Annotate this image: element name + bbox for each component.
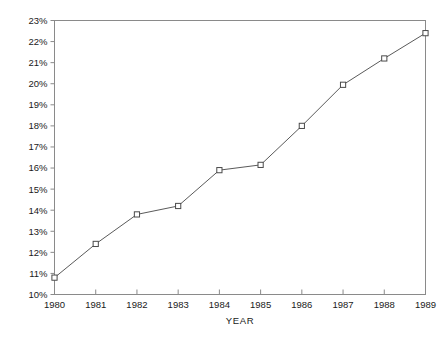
y-tick-label: 23% xyxy=(28,15,48,26)
y-tick-label: 14% xyxy=(28,205,48,216)
data-point-marker xyxy=(382,56,387,61)
x-tick-label: 1981 xyxy=(85,299,106,310)
line-chart: 10%11%12%13%14%15%16%17%18%19%20%21%22%2… xyxy=(0,0,446,338)
data-point-marker xyxy=(52,275,57,280)
x-tick-label: 1980 xyxy=(44,299,65,310)
data-point-marker xyxy=(93,241,98,246)
y-tick-label: 22% xyxy=(28,36,48,47)
data-point-marker xyxy=(299,123,304,128)
data-point-marker xyxy=(176,203,181,208)
chart-screenshot: 10%11%12%13%14%15%16%17%18%19%20%21%22%2… xyxy=(0,0,446,338)
y-tick-label: 13% xyxy=(28,226,48,237)
y-tick-label: 17% xyxy=(28,141,48,152)
x-tick-label: 1983 xyxy=(168,299,189,310)
data-point-marker xyxy=(340,82,345,87)
x-tick-label: 1989 xyxy=(415,299,436,310)
x-axis-title: YEAR xyxy=(226,315,254,326)
y-tick-label: 19% xyxy=(28,99,48,110)
y-tick-label: 20% xyxy=(28,78,48,89)
y-tick-label: 21% xyxy=(28,57,48,68)
data-point-marker xyxy=(258,162,263,167)
x-tick-label: 1984 xyxy=(209,299,230,310)
data-point-marker xyxy=(217,168,222,173)
x-tick-label: 1987 xyxy=(332,299,353,310)
y-tick-label: 12% xyxy=(28,247,48,258)
y-tick-label: 11% xyxy=(29,268,48,279)
x-tick-label: 1986 xyxy=(291,299,312,310)
y-tick-label: 16% xyxy=(28,162,48,173)
y-tick-label: 18% xyxy=(28,120,48,131)
data-point-marker xyxy=(423,31,428,36)
x-tick-label: 1988 xyxy=(374,299,395,310)
x-tick-label: 1982 xyxy=(126,299,147,310)
x-tick-label: 1985 xyxy=(250,299,271,310)
y-tick-label: 15% xyxy=(28,184,48,195)
chart-background xyxy=(0,0,446,338)
data-point-marker xyxy=(134,212,139,217)
